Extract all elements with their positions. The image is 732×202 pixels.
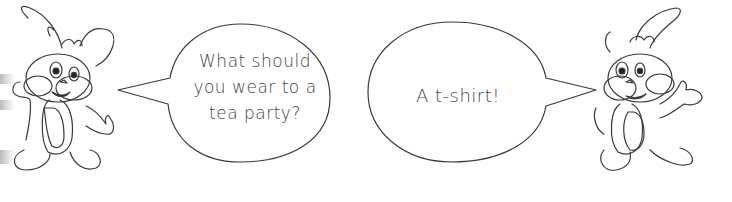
edge-smudge — [0, 74, 14, 84]
edge-smudge — [0, 150, 14, 164]
joke-scene: What should you wear to a tea party? A t… — [0, 0, 732, 202]
speech-line: A t-shirt! — [378, 84, 538, 108]
edge-smudge — [0, 100, 14, 110]
right-speech-bubble-text: A t-shirt! — [378, 84, 538, 108]
speech-line: tea party? — [175, 100, 335, 126]
right-bunny-illustration — [594, 8, 702, 170]
left-bunny-illustration — [13, 6, 114, 170]
speech-line: What should — [175, 48, 335, 74]
left-speech-bubble-text: What should you wear to a tea party? — [175, 48, 335, 126]
scene-drawing — [0, 0, 732, 202]
speech-line: you wear to a — [175, 74, 335, 100]
